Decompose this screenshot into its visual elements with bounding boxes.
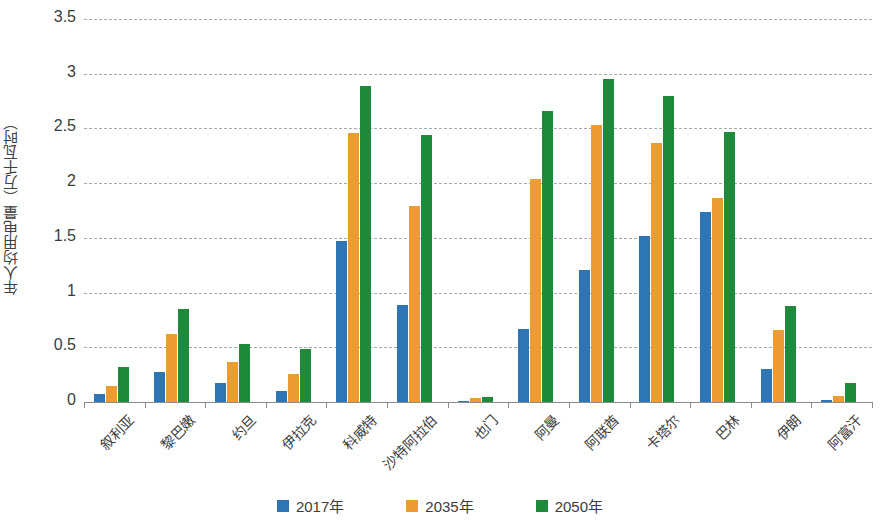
- y-axis-tick-label: 1.5: [28, 227, 76, 245]
- bar-chart: 年人均用电量（万千瓦时） 00.511.522.533.5 叙利亚黎巴嫩约旦伊拉…: [0, 0, 880, 523]
- bar: [288, 374, 299, 402]
- bar: [421, 135, 432, 402]
- bar: [336, 241, 347, 402]
- bar: [482, 397, 493, 402]
- legend-swatch-icon: [536, 500, 548, 512]
- bar: [360, 86, 371, 402]
- legend-swatch-icon: [277, 500, 289, 512]
- bar: [239, 344, 250, 402]
- legend-label: 2017年: [296, 495, 344, 516]
- bar: [773, 330, 784, 402]
- y-axis-tick-label: 3.5: [28, 8, 76, 26]
- y-axis-tick-label: 1: [28, 282, 76, 300]
- bar: [227, 362, 238, 402]
- x-axis-tick: [448, 402, 449, 408]
- x-axis-tick: [84, 402, 85, 408]
- x-axis-tick: [690, 402, 691, 408]
- y-axis-tick-label: 3: [28, 63, 76, 81]
- bar: [712, 198, 723, 402]
- x-axis-tick: [326, 402, 327, 408]
- x-axis-tick: [205, 402, 206, 408]
- legend-label: 2050年: [555, 495, 603, 516]
- x-axis-tick: [569, 402, 570, 408]
- legend-swatch-icon: [406, 500, 418, 512]
- bar: [821, 400, 832, 402]
- bar: [845, 383, 856, 402]
- bar: [518, 329, 529, 402]
- bar: [409, 206, 420, 402]
- x-axis-tick: [811, 402, 812, 408]
- bar: [458, 401, 469, 403]
- bar: [700, 212, 711, 402]
- bar: [651, 143, 662, 402]
- y-axis-title: 年人均用电量（万千瓦时）: [2, 60, 28, 350]
- y-axis-tick-label: 2: [28, 172, 76, 190]
- legend-label: 2035年: [425, 495, 473, 516]
- bar: [154, 372, 165, 402]
- bar: [542, 111, 553, 402]
- bar: [761, 369, 772, 402]
- bar: [530, 179, 541, 402]
- bar: [106, 386, 117, 402]
- chart-legend: 2017年2035年2050年: [0, 495, 880, 516]
- x-axis-tick: [266, 402, 267, 408]
- y-axis-tick-label: 0: [28, 391, 76, 409]
- legend-item[interactable]: 2035年: [406, 495, 473, 516]
- bar: [215, 383, 226, 402]
- x-axis-tick: [630, 402, 631, 408]
- x-axis-tick: [387, 402, 388, 408]
- bar: [833, 396, 844, 402]
- bar: [300, 349, 311, 402]
- bar: [785, 306, 796, 402]
- bar: [118, 367, 129, 402]
- x-axis-tick: [872, 402, 873, 408]
- bar: [94, 394, 105, 402]
- legend-item[interactable]: 2050年: [536, 495, 603, 516]
- bar: [166, 334, 177, 402]
- y-axis-tick-label: 0.5: [28, 336, 76, 354]
- bar: [591, 125, 602, 402]
- x-axis-tick: [145, 402, 146, 408]
- bar: [178, 309, 189, 402]
- bar: [470, 398, 481, 402]
- y-axis-tick-label: 2.5: [28, 117, 76, 135]
- x-axis-line: [84, 402, 872, 403]
- x-axis-tick: [508, 402, 509, 408]
- bar: [724, 132, 735, 402]
- bars-layer: [84, 19, 872, 402]
- bar: [276, 391, 287, 402]
- bar: [348, 133, 359, 402]
- x-axis-tick: [751, 402, 752, 408]
- bar: [603, 79, 614, 402]
- bar: [397, 305, 408, 402]
- legend-item[interactable]: 2017年: [277, 495, 344, 516]
- bar: [639, 236, 650, 402]
- bar: [579, 270, 590, 402]
- bar: [663, 96, 674, 402]
